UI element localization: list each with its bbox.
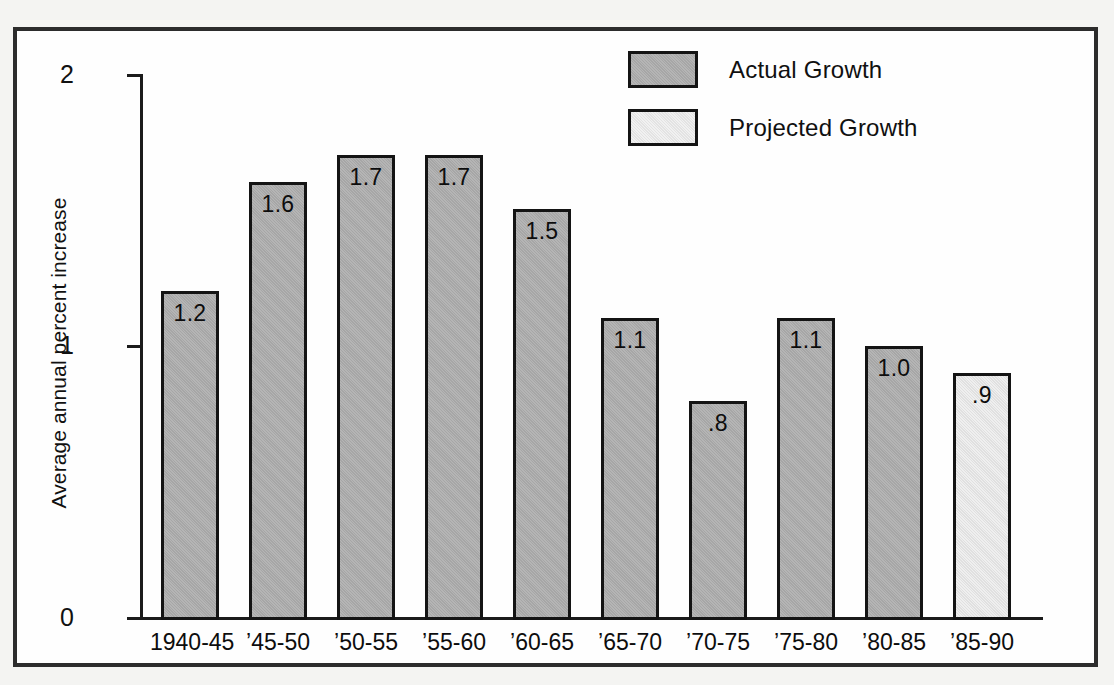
x-label-60-65: ’60-65: [502, 631, 582, 654]
bar-value-70-75: .8: [692, 412, 744, 435]
bar-value-85-90: .9: [956, 384, 1008, 407]
legend-label-projected-growth: Projected Growth: [729, 114, 918, 142]
x-label-80-85: ’80-85: [854, 631, 934, 654]
plot-area: Actual Growth Projected Growth 2 1 0 Ave…: [17, 31, 1102, 671]
legend-item-projected-growth: Projected Growth: [628, 109, 918, 146]
legend-swatch-projected-growth: [628, 109, 698, 146]
bar-1940-45: 1.2: [161, 291, 219, 620]
bar-55-60: 1.7: [425, 155, 483, 620]
bar-80-85: 1.0: [865, 346, 923, 620]
bar-45-50: 1.6: [249, 182, 307, 620]
chart-legend: Actual Growth Projected Growth: [628, 51, 918, 167]
y-tick-mark-2: [127, 74, 143, 77]
x-label-50-55: ’50-55: [326, 631, 406, 654]
y-axis-title: Average annual percent increase: [47, 143, 71, 563]
bar-value-50-55: 1.7: [340, 166, 392, 189]
bar-75-80: 1.1: [777, 318, 835, 620]
bar-value-80-85: 1.0: [868, 357, 920, 380]
bar-value-75-80: 1.1: [780, 329, 832, 352]
x-label-85-90: ’85-90: [942, 631, 1022, 654]
legend-label-actual-growth: Actual Growth: [729, 56, 882, 84]
bar-value-60-65: 1.5: [516, 220, 568, 243]
bar-60-65: 1.5: [513, 209, 571, 620]
bar-value-55-60: 1.7: [428, 166, 480, 189]
x-label-70-75: ’70-75: [678, 631, 758, 654]
x-label-1940-45: 1940-45: [150, 631, 230, 654]
y-tick-label-2: 2: [34, 62, 74, 87]
y-tick-mark-0: [127, 617, 143, 620]
bar-85-90: .9: [953, 373, 1011, 620]
y-tick-label-0: 0: [34, 605, 74, 630]
x-label-75-80: ’75-80: [766, 631, 846, 654]
chart-page: Actual Growth Projected Growth 2 1 0 Ave…: [0, 0, 1114, 685]
bar-65-70: 1.1: [601, 318, 659, 620]
legend-swatch-actual-growth: [628, 51, 698, 88]
bar-value-65-70: 1.1: [604, 329, 656, 352]
chart-frame: Actual Growth Projected Growth 2 1 0 Ave…: [13, 27, 1098, 667]
y-tick-mark-1: [127, 345, 143, 348]
bar-value-45-50: 1.6: [252, 193, 304, 216]
legend-item-actual-growth: Actual Growth: [628, 51, 918, 88]
x-label-65-70: ’65-70: [590, 631, 670, 654]
x-label-45-50: ’45-50: [238, 631, 318, 654]
bar-70-75: .8: [689, 401, 747, 620]
bar-value-1940-45: 1.2: [164, 302, 216, 325]
bar-50-55: 1.7: [337, 155, 395, 620]
x-label-55-60: ’55-60: [414, 631, 494, 654]
